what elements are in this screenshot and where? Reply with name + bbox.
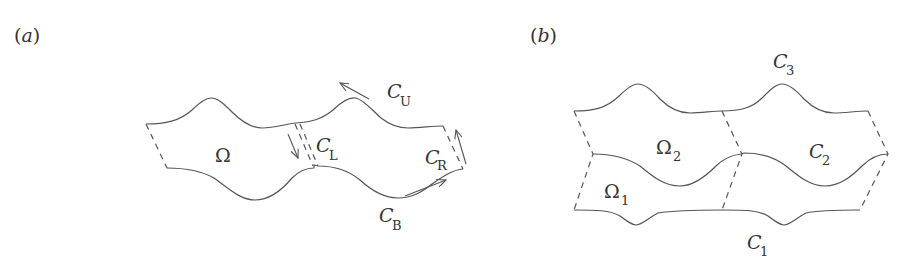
arrow-cr-up-icon xyxy=(456,130,466,164)
svg-text:U: U xyxy=(400,94,411,109)
label-c-1: C 1 xyxy=(747,231,768,259)
label-c-l: C L xyxy=(316,134,338,163)
svg-text:2: 2 xyxy=(822,153,830,168)
left-dashed-side xyxy=(146,124,167,168)
svg-text:R: R xyxy=(437,158,448,173)
middle-curve-c2 xyxy=(593,153,888,186)
diagram-canvas: (a) Ω C U C L C R C B xyxy=(0,0,905,269)
panel-b: (b) Ω 2 Ω 1 C 3 C 2 C 1 xyxy=(530,24,888,259)
svg-text:3: 3 xyxy=(786,63,794,78)
label-c-u: C U xyxy=(387,80,411,109)
dashed-side-left xyxy=(574,111,593,210)
region-omega-label: Ω xyxy=(215,144,231,166)
bottom-curve-c1 xyxy=(574,210,860,225)
svg-text:1: 1 xyxy=(621,193,629,208)
svg-text:Ω: Ω xyxy=(656,136,672,158)
label-omega-1: Ω 1 xyxy=(604,180,629,208)
panel-b-tag: (b) xyxy=(530,24,557,46)
dashed-side-middle xyxy=(722,111,742,210)
label-c-2: C 2 xyxy=(809,140,830,168)
label-omega-2: Ω 2 xyxy=(656,136,681,164)
label-c-r: C R xyxy=(425,146,448,173)
middle-dashed-side-1 xyxy=(295,124,313,166)
arrow-cu-left-icon xyxy=(340,83,369,99)
svg-text:B: B xyxy=(392,218,402,233)
arrow-cl-down-icon xyxy=(288,134,298,158)
arrow-cb-right-icon xyxy=(405,180,446,196)
lower-boundary-curve xyxy=(167,165,463,200)
top-curve-c3 xyxy=(574,84,868,113)
panel-a-tag: (a) xyxy=(14,24,40,46)
label-c-b: C B xyxy=(379,204,402,233)
upper-boundary-curve xyxy=(146,98,443,128)
dashed-side-right xyxy=(860,111,888,210)
svg-text:L: L xyxy=(329,148,338,163)
svg-text:1: 1 xyxy=(760,244,768,259)
panel-a: (a) Ω C U C L C R C B xyxy=(14,24,466,233)
svg-text:2: 2 xyxy=(673,149,681,164)
svg-text:Ω: Ω xyxy=(604,180,620,202)
label-c-3: C 3 xyxy=(773,50,794,78)
